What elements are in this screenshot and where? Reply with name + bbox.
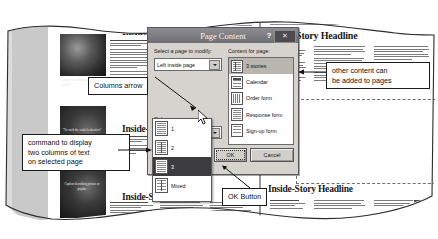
calendar-page-icon (231, 76, 243, 89)
ok-button[interactable]: OK (214, 148, 247, 162)
one-column-icon (155, 121, 168, 136)
list-item-label: Order form (246, 95, 272, 101)
page-select-combo[interactable]: Left inside page (154, 58, 222, 71)
mixed-column-icon (155, 178, 168, 193)
signup-form-page-icon (231, 124, 243, 137)
dialog-title-bar[interactable]: Page Content ? ✕ (148, 28, 298, 43)
columns-option[interactable]: 3 (153, 157, 211, 176)
list-item[interactable]: Calendar (229, 74, 293, 90)
list-item-label: 3 stories (246, 63, 266, 69)
callout-ok-button: OK Button (222, 188, 267, 206)
callout-other-content: other content can be added to pages (326, 62, 430, 89)
callout-two-columns-command: command to display two columns of text o… (22, 134, 130, 171)
two-column-icon (155, 140, 168, 155)
cancel-button[interactable]: Cancel (250, 148, 294, 162)
three-columns-page-icon (231, 60, 243, 73)
list-item[interactable]: Sign-up form (229, 123, 293, 139)
close-icon[interactable]: ✕ (274, 30, 296, 43)
response-form-page-icon (231, 108, 243, 121)
list-item[interactable]: 3 stories (229, 58, 293, 74)
callout-columns-arrow: Columns arrow (88, 77, 148, 95)
columns-option[interactable]: Mixed (153, 176, 211, 195)
order-form-page-icon (231, 92, 243, 105)
content-for-page-listbox[interactable]: 3 stories Calendar Order form Response f… (228, 57, 294, 145)
screenshot-stage: Page 2 Inside-Story Headline Caption des… (0, 0, 438, 239)
three-column-icon (155, 159, 168, 174)
list-item-label: Calendar (246, 79, 268, 85)
list-item-label: Response form (246, 112, 283, 118)
columns-dropdown-popup[interactable]: 1 2 3 Mixed (152, 118, 212, 202)
chevron-down-icon[interactable] (209, 60, 220, 70)
columns-option-label: 2 (171, 145, 174, 151)
page-select-label: Select a page to modify: (154, 48, 212, 54)
page-select-value: Left inside page (155, 62, 195, 68)
help-icon[interactable]: ? (264, 30, 274, 41)
columns-option-label: 1 (171, 126, 174, 132)
columns-option[interactable]: 2 (153, 138, 211, 157)
content-list-label: Content for page: (228, 48, 270, 54)
columns-option-label: Mixed (171, 183, 185, 189)
list-item-label: Sign-up form (246, 128, 277, 134)
list-item[interactable]: Order form (229, 90, 293, 106)
columns-option-label: 3 (171, 164, 174, 170)
list-item[interactable]: Response form (229, 107, 293, 123)
